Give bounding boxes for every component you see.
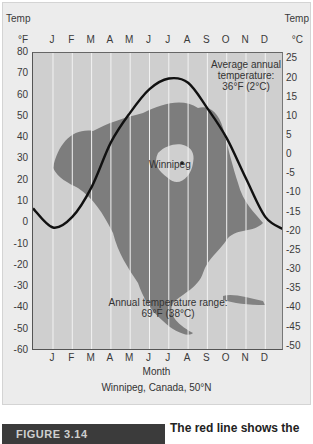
right-tick-label: 20 [286, 72, 297, 83]
left-tick-label: 10 [2, 195, 28, 206]
avg-annotation-line1: Average annual [201, 59, 283, 70]
month-label-bottom: M [125, 352, 133, 363]
avg-annotation-line2: temperature: [201, 70, 283, 81]
month-label-bottom: J [146, 352, 151, 363]
month-label-top: A [107, 34, 114, 45]
month-label-top: J [50, 34, 55, 45]
left-tick-label: -10 [2, 238, 28, 249]
right-axis-unit: °C [292, 34, 303, 45]
month-label-bottom: A [184, 352, 191, 363]
range-annotation: Annual temperature range: 69°F (38°C) [93, 297, 243, 319]
month-label-top: N [241, 34, 248, 45]
month-label-top: D [261, 34, 268, 45]
right-tick-label: -35 [286, 282, 300, 293]
left-tick-label: 70 [2, 67, 28, 78]
month-label-top: A [184, 34, 191, 45]
left-tick-label: 50 [2, 110, 28, 121]
right-tick-label: -10 [286, 186, 300, 197]
avg-annotation: Average annual temperature: 36°F (2°C) [201, 59, 283, 92]
range-annotation-line2: 69°F (38°C) [93, 308, 243, 319]
month-label-bottom: S [203, 352, 210, 363]
right-tick-label: -5 [286, 167, 295, 178]
month-label-bottom: N [241, 352, 248, 363]
left-tick-label: -20 [2, 259, 28, 270]
month-label-top: J [146, 34, 151, 45]
avg-annotation-line3: 36°F (2°C) [201, 81, 283, 92]
month-label-top: M [125, 34, 133, 45]
month-label-top: F [68, 34, 74, 45]
month-label-bottom: M [86, 352, 94, 363]
right-tick-label: 25 [286, 52, 297, 63]
figure-number-tab: FIGURE 3.14 [2, 424, 165, 444]
right-tick-label: 5 [286, 129, 292, 140]
month-label-top: J [165, 34, 170, 45]
right-axis-title: Temp [285, 13, 309, 24]
right-tick-label: 0 [286, 148, 292, 159]
month-label-top: O [222, 34, 230, 45]
month-label-bottom: O [222, 352, 230, 363]
left-axis-unit: °F [18, 34, 28, 45]
left-tick-label: 30 [2, 152, 28, 163]
city-label: Winnipeg [149, 159, 191, 170]
right-tick-label: 10 [286, 110, 297, 121]
left-tick-label: 80 [2, 46, 28, 57]
month-label-bottom: F [68, 352, 74, 363]
month-label-top: S [203, 34, 210, 45]
figure-caption-text: The red line shows the [170, 421, 299, 435]
left-tick-label: -50 [2, 323, 28, 334]
month-label-bottom: J [165, 352, 170, 363]
left-tick-label: 60 [2, 89, 28, 100]
range-annotation-line1: Annual temperature range: [93, 297, 243, 308]
left-tick-label: -40 [2, 301, 28, 312]
left-axis-title: Temp [6, 13, 30, 24]
left-tick-label: 40 [2, 131, 28, 142]
month-label-bottom: J [50, 352, 55, 363]
right-tick-label: 15 [286, 91, 297, 102]
left-tick-label: 20 [2, 174, 28, 185]
right-tick-label: -45 [286, 321, 300, 332]
left-tick-label: -30 [2, 280, 28, 291]
x-axis-label: Month [0, 366, 313, 377]
month-label-bottom: A [107, 352, 114, 363]
chart-caption: Winnipeg, Canada, 50°N [0, 382, 313, 393]
right-tick-label: -50 [286, 340, 300, 351]
plot-area: Average annual temperature: 36°F (2°C) W… [32, 52, 283, 350]
right-tick-label: -25 [286, 244, 300, 255]
right-tick-label: -15 [286, 206, 300, 217]
left-tick-label: 0 [2, 216, 28, 227]
right-tick-label: -30 [286, 263, 300, 274]
month-label-bottom: D [261, 352, 268, 363]
left-tick-label: -60 [2, 344, 28, 355]
right-tick-label: -20 [286, 225, 300, 236]
right-tick-label: -40 [286, 301, 300, 312]
month-label-top: M [86, 34, 94, 45]
